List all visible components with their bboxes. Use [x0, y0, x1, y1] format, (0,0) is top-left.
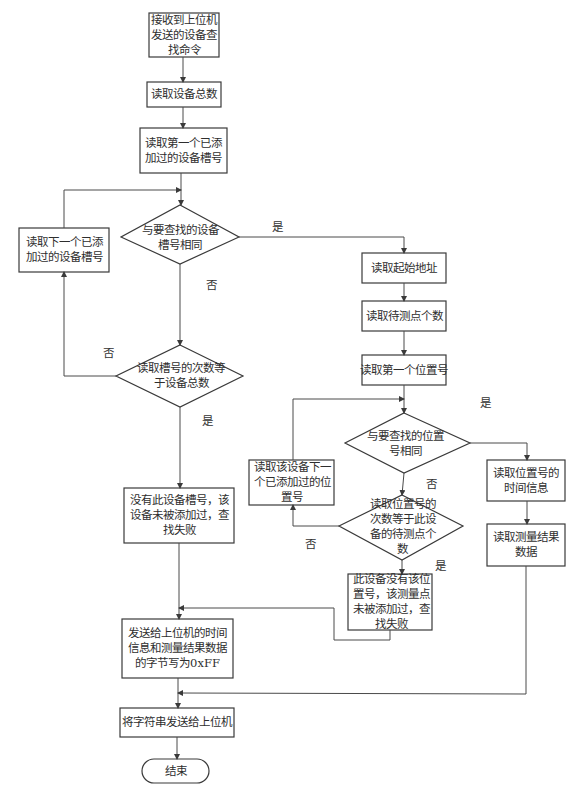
read-next-slot-label: 读取下一个已添加过的设备槽号 [22, 228, 106, 272]
cond-slot-count-label: 读取槽号的次数等于设备总数 [136, 360, 226, 392]
send-string-label: 将字符串发送给上位机 [120, 708, 234, 737]
edge-pos-no-to-count [402, 473, 404, 495]
cond-pos-count-label: 读取位置号的次数等于此设备的待测点个数 [365, 503, 440, 551]
edge-pos-count-no-to-next-pos [293, 505, 339, 526]
end-label: 结束 [142, 759, 209, 783]
no-position-label: 此设备没有该位置号，该测量点未被添加过，查找失败 [350, 574, 432, 630]
read-first-slot-label: 读取第一个已添加过的设备槽号 [142, 128, 225, 173]
edge-label-slot-count-no: 否 [103, 344, 114, 360]
edge-label-slot-count-yes: 是 [202, 412, 213, 428]
write-ff-label: 发送给上位机的时间信息和测量结果数据的字节写为0xFF [124, 619, 231, 678]
edge-count-no-to-next-slot [64, 272, 116, 376]
edge-label-pos-match-yes: 是 [480, 394, 491, 410]
read-point-count-label: 读取待测点个数 [362, 301, 446, 331]
cond-slot-match-label: 与要查找的设备槽号相同 [138, 222, 222, 254]
edge-label-slot-match-yes: 是 [272, 218, 283, 234]
flowchart-canvas [0, 0, 583, 795]
read-result-label: 读取测量结果数据 [489, 524, 563, 566]
edge-slot-yes-to-start-addr [239, 237, 404, 253]
no-device-label: 没有此设备槽号，该设备未被添加过，查找失败 [126, 488, 232, 543]
edge-label-pos-match-no: 否 [426, 475, 437, 491]
read-next-pos-label: 读取该设备下一个已添加过的位置号 [251, 460, 333, 505]
edge-label-slot-match-no: 否 [206, 276, 217, 292]
edge-label-pos-count-yes: 是 [435, 557, 446, 573]
read-total-label: 读取设备总数 [147, 82, 221, 107]
read-time-label: 读取位置号的时间信息 [489, 460, 563, 501]
cond-pos-match-label: 与要查找的位置号相同 [365, 428, 445, 460]
edge-pos-yes-to-time [470, 443, 527, 460]
read-start-addr-label: 读取起始地址 [362, 253, 446, 283]
edge-label-pos-count-no: 否 [305, 535, 316, 551]
read-first-pos-label: 读取第一个位置号 [360, 355, 448, 385]
start-label: 接收到上位机发送的设备查找命令 [149, 13, 219, 57]
